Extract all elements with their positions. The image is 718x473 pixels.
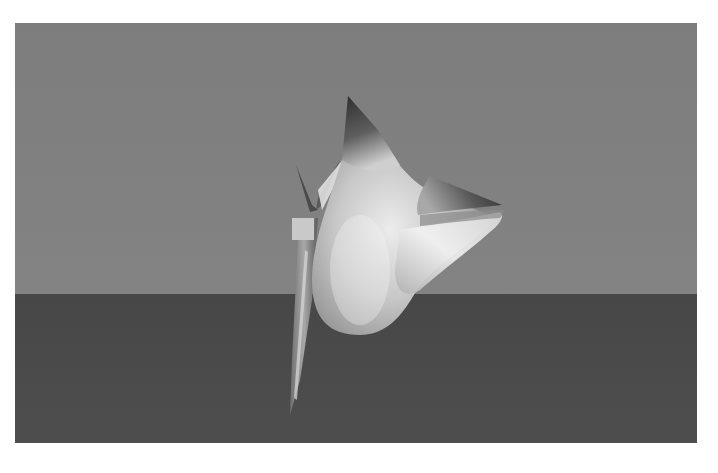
rendered-scene [15,23,697,443]
left-facet [292,218,314,240]
render-viewport [15,23,697,443]
